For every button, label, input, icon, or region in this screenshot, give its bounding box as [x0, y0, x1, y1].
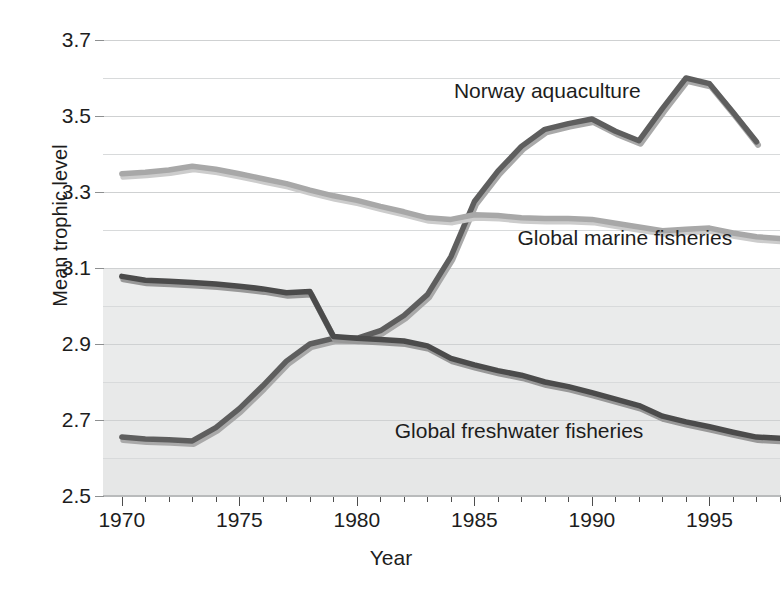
x-tick-1977 — [286, 497, 287, 502]
y-tick-label-3.7: 3.7 — [31, 28, 91, 52]
x-tick-label-1970: 1970 — [98, 508, 145, 532]
x-tick-label-1995: 1995 — [686, 508, 733, 532]
x-tick-1976 — [263, 497, 264, 502]
series-label-global-marine-fisheries: Global marine fisheries — [517, 226, 732, 250]
chart-figure: 197019751980198519901995 2.52.72.93.13.3… — [0, 0, 782, 594]
x-tick-1982 — [404, 497, 405, 502]
x-tick-1981 — [380, 497, 381, 502]
x-tick-1983 — [427, 497, 428, 502]
x-axis-line — [103, 495, 781, 497]
x-tick-1980 — [357, 497, 358, 506]
x-tick-1986 — [498, 497, 499, 502]
x-tick-1993 — [662, 497, 663, 502]
x-tick-1972 — [169, 497, 170, 502]
x-tick-1978 — [310, 497, 311, 502]
x-tick-1996 — [733, 497, 734, 502]
y-axis-title: Mean trophic level — [49, 106, 72, 346]
x-tick-1998 — [780, 497, 781, 502]
x-tick-1971 — [145, 497, 146, 502]
series-line-global-freshwater-fisheries — [122, 276, 780, 438]
x-tick-label-1975: 1975 — [216, 508, 263, 532]
y-tick-mark-2.9 — [95, 344, 104, 345]
x-tick-1970 — [122, 497, 123, 506]
x-tick-1987 — [521, 497, 522, 502]
y-tick-mark-3.7 — [95, 40, 104, 41]
x-tick-1984 — [451, 497, 452, 502]
x-tick-1975 — [239, 497, 240, 506]
x-tick-1991 — [615, 497, 616, 502]
x-tick-1994 — [686, 497, 687, 502]
y-tick-label-2.5: 2.5 — [31, 484, 91, 508]
x-tick-1990 — [592, 497, 593, 506]
y-tick-label-2.7: 2.7 — [31, 408, 91, 432]
x-axis-title: Year — [0, 546, 782, 570]
x-tick-1997 — [756, 497, 757, 502]
y-tick-mark-2.7 — [95, 420, 104, 421]
x-tick-label-1980: 1980 — [334, 508, 381, 532]
x-tick-label-1990: 1990 — [569, 508, 616, 532]
y-tick-mark-3.1 — [95, 268, 104, 269]
series-shadow-norway-aquaculture — [123, 81, 758, 444]
x-tick-label-1985: 1985 — [451, 508, 498, 532]
y-tick-mark-3.3 — [95, 192, 104, 193]
x-tick-1992 — [639, 497, 640, 502]
x-tick-1974 — [216, 497, 217, 502]
y-tick-mark-2.5 — [95, 496, 104, 497]
y-tick-mark-3.5 — [95, 116, 104, 117]
x-tick-1989 — [568, 497, 569, 502]
x-tick-1973 — [192, 497, 193, 502]
series-label-norway-aquaculture: Norway aquaculture — [454, 79, 641, 103]
x-tick-1995 — [709, 497, 710, 506]
series-line-norway-aquaculture — [122, 78, 757, 441]
series-label-global-freshwater-fisheries: Global freshwater fisheries — [395, 419, 644, 443]
x-tick-1988 — [545, 497, 546, 502]
x-tick-1979 — [333, 497, 334, 502]
x-tick-1985 — [474, 497, 475, 506]
